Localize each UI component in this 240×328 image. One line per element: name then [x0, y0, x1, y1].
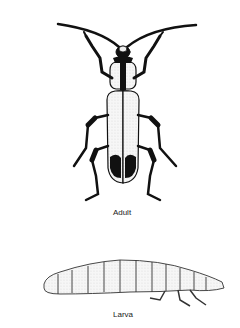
larva — [44, 260, 224, 306]
larva-label: Larva — [93, 310, 153, 319]
beetle-illustration — [0, 0, 240, 328]
adult-beetle — [58, 24, 196, 200]
adult-label: Adult — [92, 208, 152, 217]
